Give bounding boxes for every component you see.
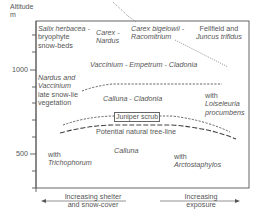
juniper-scrub-label: Juniper scrub	[114, 112, 160, 122]
tick-label-500: 500	[4, 149, 28, 158]
arrow-label-line: exposure	[178, 201, 224, 209]
zone-salix-herbacea: Salix herbacea - bryophyte snow-beds	[38, 25, 90, 50]
zone-label-line: snow-beds	[38, 42, 90, 50]
zone-label-line: Trichophorum	[48, 159, 92, 167]
zone-calluna-cladonia: Calluna - Cladonia	[103, 95, 162, 103]
tree-line-label: Potential natural tree-line	[96, 128, 176, 136]
zone-label-line: procumbens	[205, 109, 245, 117]
zone-label-line: Arctostaphylos	[174, 161, 221, 169]
exposure-label: Increasing exposure	[178, 193, 224, 210]
zone-label-line: Racomitrium	[131, 33, 184, 41]
zone-label-line: Juniper scrub	[116, 113, 158, 120]
zone-label-line: Nardus	[96, 37, 120, 45]
zone-calluna: Calluna	[114, 147, 138, 155]
shelter-label: Increasing shelter and snow-cover	[62, 193, 124, 210]
zone-vaccinium-empetrum: Vaccinium - Empetrum - Cladonia	[90, 61, 197, 69]
tick-label-1000: 1000	[4, 65, 28, 74]
zone-nardus-vaccinium: Nardus and Vaccinium late snow-lie veget…	[38, 74, 78, 108]
arrow-label-line: and snow-cover	[62, 201, 124, 209]
zone-label-line: Calluna	[114, 146, 138, 155]
y-axis-title-line1: Altitude	[10, 3, 33, 11]
y-axis-title-line2: m	[10, 11, 33, 19]
zone-label-line: Calluna - Cladonia	[103, 94, 162, 103]
y-axis-title: Altitude m	[10, 3, 33, 19]
zone-carex-nardus: Carex - Nardus	[96, 29, 120, 46]
y-ticks	[30, 35, 36, 188]
zone-trichophorum: with Trichophorum	[48, 151, 92, 168]
zone-carex-bigelowii: Carex bigelowii - Racomitrium	[131, 25, 184, 42]
zone-label-line: Potential natural tree-line	[96, 127, 176, 136]
zone-label-line: vegetation	[38, 99, 78, 107]
vaccinium-calluna-boundary	[82, 84, 222, 91]
zone-fellfield: Fellfield and Juncus trifidus	[196, 25, 242, 42]
zone-label-line: Juncus trifidus	[196, 33, 242, 41]
zone-arctostaphylos: with Arctostaphylos	[174, 153, 221, 170]
zone-label-line: Vaccinium - Empetrum - Cladonia	[90, 60, 197, 69]
zone-loiseleuria: with Loiseleuria procumbens	[205, 92, 245, 117]
vegetation-altitude-diagram: Altitude m 1000 500 Salix herbacea - bry…	[0, 0, 261, 221]
